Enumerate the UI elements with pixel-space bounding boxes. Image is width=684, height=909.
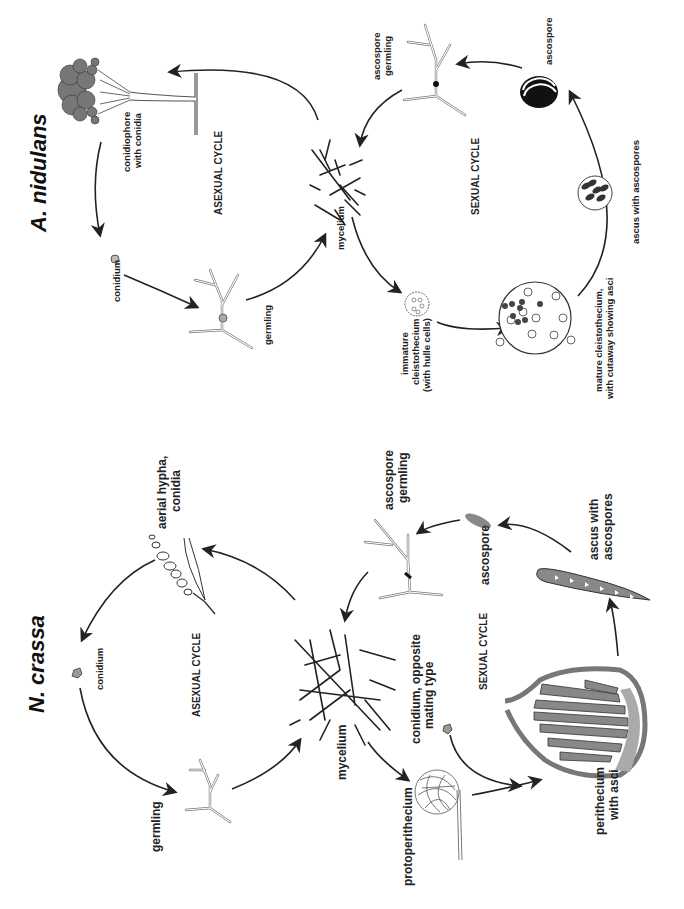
- ascospore-germling-icon-a: [404, 25, 465, 115]
- ascospore-icon-a: [520, 76, 558, 108]
- arrow-germling-to-mycelium: [246, 235, 325, 300]
- conidium-icon-n: [72, 668, 82, 678]
- mature-cleistothecium-icon: [496, 282, 575, 354]
- arrow-conidium-to-germling: [124, 275, 197, 307]
- label-proto: protoperithecium: [401, 787, 415, 886]
- label-aerial-2: conidia: [169, 470, 183, 512]
- label-conidiophore-2: with conidia: [132, 112, 143, 169]
- immature-cleistothecium-icon: [405, 292, 429, 316]
- label-sexual-cycle-a: SEXUAL CYCLE: [470, 138, 481, 215]
- arrow-ascospore-to-germling-a: [458, 62, 522, 68]
- title-a-nidulans: A. nidulans: [26, 113, 51, 233]
- ascospore-germling-icon-n: [365, 520, 442, 598]
- label-asg-a-2: germling: [382, 36, 393, 76]
- label-peri-2: with asci: [607, 769, 621, 821]
- label-ascospore-n: ascospore: [478, 525, 492, 585]
- label-sexual-cycle-n: SEXUAL CYCLE: [478, 613, 489, 690]
- label-ascus-n-2: ascospores: [601, 493, 615, 560]
- perithecium-icon: [505, 669, 645, 776]
- label-ascus-a: ascus with ascospores: [630, 140, 641, 244]
- label-mycelium-n: mycelium: [335, 725, 349, 780]
- label-germling-n: germling: [149, 801, 163, 852]
- arrow-perithecium-to-ascus: [610, 600, 618, 656]
- ascus-icon-n: [537, 569, 650, 600]
- label-opp-2: mating type: [422, 661, 436, 729]
- label-asg-a-1: ascospore: [371, 32, 382, 80]
- label-conidiophore-1: conidiophore: [121, 112, 132, 172]
- arrow-germling-to-mycelium-sexual-n: [345, 572, 368, 620]
- label-germling-a: germling: [262, 305, 273, 345]
- label-aerial-1: aerial hypha,: [155, 456, 169, 529]
- arrow-ascospore-to-germling-n: [418, 520, 460, 533]
- title-n-crassa: N. crassa: [24, 615, 49, 713]
- label-ascospore-a: ascospore: [543, 17, 554, 65]
- label-peri-1: perithecium: [593, 767, 607, 835]
- label-mature-2: with cutaway showing asci: [604, 278, 615, 400]
- label-immature-1: immature: [399, 332, 410, 375]
- label-mature-1: mature cleistothecium,: [593, 289, 604, 392]
- arrow-mycelium-to-proto: [368, 742, 408, 780]
- label-immature-2: cleistothecium: [410, 318, 421, 385]
- ascus-icon-a: [578, 176, 612, 210]
- aerial-hypha-icon: [149, 535, 215, 614]
- label-immature-3: (with hulle cells): [421, 318, 432, 392]
- arrow-mycelium-to-aerial: [204, 549, 295, 600]
- protoperithecium-icon: [415, 770, 462, 860]
- conidium-opposite-icon: [443, 724, 452, 734]
- germling-icon: [190, 270, 252, 348]
- arrow-conidium-to-germling-n: [80, 688, 175, 792]
- fungal-life-cycle-diagram: A. nidulans conidiophore with conidia AS…: [0, 0, 684, 909]
- label-conidium-n: conidium: [94, 648, 105, 690]
- panel-a-nidulans: A. nidulans conidiophore with conidia AS…: [26, 17, 641, 400]
- arrow-aerial-to-conidium: [82, 560, 155, 640]
- arrow-conidiophore-to-conidium: [95, 142, 101, 235]
- arrow-conidium-to-perithecium: [450, 735, 520, 786]
- label-asexual-cycle-a: ASEXUAL CYCLE: [213, 130, 224, 215]
- label-conidium-a: conidium: [111, 260, 122, 302]
- arrow-germling-to-mycelium-n: [232, 740, 300, 789]
- arrow-mycelium-to-conidiophore: [170, 70, 318, 120]
- label-asg-n-2: germling: [396, 452, 410, 503]
- arrow-proto-to-perithecium: [472, 780, 540, 795]
- label-asg-n-1: ascospore: [382, 450, 396, 510]
- panel-n-crassa: N. crassa conidium ASEXUAL CYCLE aerial …: [24, 450, 650, 886]
- label-ascus-n-1: ascus with: [587, 499, 601, 560]
- arrow-ascus-to-ascospore: [500, 524, 571, 552]
- arrow-immature-to-mature: [437, 322, 508, 329]
- label-mycelium-a: mycelium: [335, 206, 346, 250]
- arrow-germling-to-mycelium-a: [360, 90, 402, 145]
- arrow-mycelium-to-immature: [352, 217, 400, 292]
- label-asexual-cycle-n: ASEXUAL CYCLE: [191, 632, 202, 717]
- germling-icon-n: [186, 760, 230, 822]
- label-opp-1: conidium, opposite: [409, 634, 423, 744]
